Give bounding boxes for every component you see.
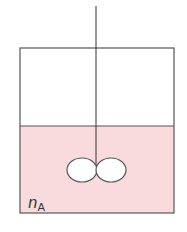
impeller-blade-right (96, 158, 126, 182)
amount-subscript: A (38, 201, 46, 214)
impeller-blade-left (67, 158, 97, 182)
stirred-tank-diagram: nA (0, 0, 187, 232)
amount-symbol: n (28, 194, 38, 212)
